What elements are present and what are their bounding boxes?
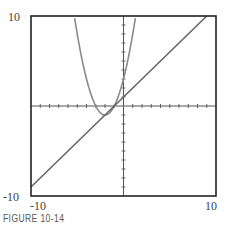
graph-plot — [0, 0, 229, 230]
x-min-label: -10 — [30, 199, 46, 214]
x-max-label: 10 — [205, 199, 217, 214]
figure-caption: FIGURE 10-14 — [3, 213, 64, 224]
y-max-label: 10 — [8, 10, 20, 25]
line-curve — [31, 16, 207, 187]
y-min-label: -10 — [3, 190, 19, 205]
parabola-curve — [75, 18, 136, 115]
